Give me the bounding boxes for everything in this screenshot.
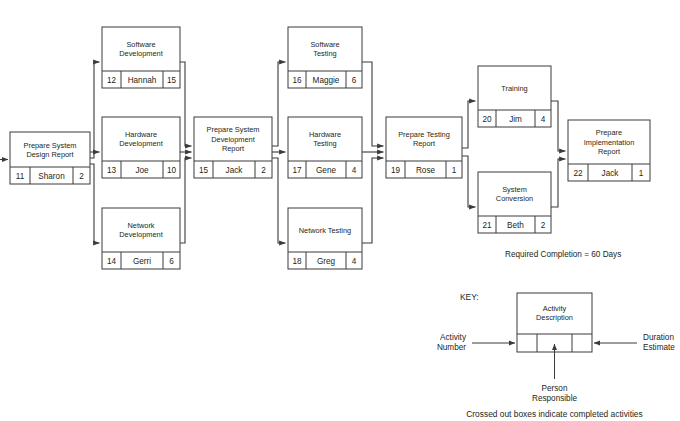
nodes-layer: Prepare SystemDesign Report11Sharon2Soft… (10, 27, 650, 269)
node-duration-estimate: 10 (167, 166, 177, 175)
node-title: Testing (313, 139, 336, 148)
node-person-responsible: Gene (316, 166, 336, 175)
node-activity-number: 18 (292, 257, 302, 266)
edge-connector (551, 101, 566, 151)
activity-node[interactable]: Prepare SystemDevelopmentReport15Jack2 (194, 117, 272, 178)
diagram-canvas: Prepare SystemDesign Report11Sharon2Soft… (0, 0, 680, 421)
edge-connector (180, 158, 192, 243)
legend-footnote: Crossed out boxes indicate completed act… (466, 409, 642, 419)
node-title: Network Testing (299, 226, 351, 235)
node-duration-estimate: 4 (352, 166, 357, 175)
node-title: Testing (313, 49, 336, 58)
edge-connector (462, 101, 476, 148)
node-title: Report (598, 147, 620, 156)
node-title: Development (211, 135, 255, 144)
node-activity-number: 13 (107, 166, 117, 175)
node-activity-number: 15 (199, 166, 209, 175)
required-completion-annotation: Required Completion = 60 Days (505, 250, 621, 259)
edge-connector (362, 62, 384, 146)
node-title: Report (413, 139, 435, 148)
edge-connector (272, 62, 286, 146)
node-person-responsible: Maggie (313, 76, 340, 85)
activity-node[interactable]: SoftwareTesting16Maggie6 (288, 27, 362, 88)
activity-node[interactable]: Prepare TestingReport19Rose1 (386, 117, 462, 178)
legend-activity-number-label: Number (437, 343, 466, 352)
node-title: Prepare Testing (398, 130, 450, 139)
node-activity-number: 11 (16, 172, 25, 181)
edge-connector (90, 62, 100, 152)
node-activity-number: 17 (292, 166, 302, 175)
node-duration-estimate: 1 (639, 169, 644, 178)
edge-connector (90, 152, 100, 158)
node-person-responsible: Jack (602, 169, 620, 178)
legend-person-label: Person (542, 384, 568, 393)
node-duration-estimate: 4 (541, 115, 546, 124)
project-network-svg: Prepare SystemDesign Report11Sharon2Soft… (0, 0, 680, 421)
node-title: Software (126, 40, 155, 49)
node-activity-number: 21 (482, 221, 492, 230)
node-title: Prepare (596, 128, 622, 137)
activity-node[interactable]: PrepareImplementationReport22Jack1 (568, 120, 650, 181)
node-duration-estimate: 15 (167, 76, 177, 85)
node-duration-estimate: 1 (452, 166, 457, 175)
node-title: Design Report (26, 150, 73, 159)
node-activity-number: 16 (292, 76, 302, 85)
node-person-responsible: Joe (135, 166, 149, 175)
node-activity-number: 12 (107, 76, 117, 85)
node-person-responsible: Greg (317, 257, 336, 266)
node-duration-estimate: 4 (352, 257, 357, 266)
activity-node[interactable]: Training20Jim4 (478, 66, 551, 127)
node-activity-number: 14 (107, 257, 117, 266)
node-title: Development (119, 230, 163, 239)
legend-duration-label: Estimate (643, 343, 675, 352)
legend-heading: KEY: (460, 292, 479, 302)
node-title: Implementation (584, 138, 635, 147)
node-person-responsible: Rose (416, 166, 436, 175)
node-title: Report (222, 144, 244, 153)
node-title: Network (127, 221, 154, 230)
node-title: Prepare System (207, 125, 260, 134)
node-person-responsible: Hannah (128, 76, 157, 85)
node-activity-number: 22 (573, 169, 583, 178)
edge-connector (551, 159, 566, 207)
node-person-responsible: Beth (507, 221, 524, 230)
edge-connector (462, 156, 476, 207)
node-title: Development (119, 139, 163, 148)
node-title: Training (501, 84, 527, 93)
node-person-responsible: Jack (226, 166, 244, 175)
activity-node[interactable]: NetworkDevelopment14Gerri6 (102, 208, 180, 269)
node-title: Hardware (125, 130, 157, 139)
legend-box-title: Description (536, 313, 573, 322)
legend-layer: Required Completion = 60 DaysKEY:Activit… (437, 250, 675, 419)
activity-node[interactable]: HardwareTesting17Gene4 (288, 117, 362, 178)
node-title: Software (310, 40, 339, 49)
node-duration-estimate: 6 (169, 257, 174, 266)
legend-duration-label: Duration (643, 333, 674, 342)
node-duration-estimate: 6 (352, 76, 357, 85)
node-person-responsible: Gerri (133, 257, 151, 266)
legend-box-title: Activity (543, 304, 567, 313)
activity-node[interactable]: HardwareDevelopment13Joe10 (102, 117, 180, 178)
node-person-responsible: Jim (509, 115, 522, 124)
edge-connector (362, 158, 384, 243)
node-activity-number: 19 (391, 166, 401, 175)
edge-connector (272, 158, 286, 243)
node-person-responsible: Sharon (38, 172, 65, 181)
node-title: Hardware (309, 130, 341, 139)
activity-node[interactable]: SystemConversion21Beth2 (478, 172, 551, 233)
activity-node[interactable]: Network Testing18Greg4 (288, 208, 362, 269)
node-activity-number: 20 (482, 115, 492, 124)
activity-node[interactable]: SoftwareDevelopment12Hannah15 (102, 27, 180, 88)
node-title: System (502, 185, 527, 194)
node-duration-estimate: 2 (79, 172, 84, 181)
legend-activity-number-label: Activity (440, 333, 467, 342)
legend-box-outline (517, 293, 592, 352)
legend: KEY:ActivityDescriptionActivityNumberDur… (437, 292, 675, 419)
node-duration-estimate: 2 (261, 166, 266, 175)
edge-connector (180, 62, 192, 146)
node-title: Conversion (496, 194, 533, 203)
node-duration-estimate: 2 (541, 221, 546, 230)
activity-node[interactable]: Prepare SystemDesign Report11Sharon2 (10, 132, 90, 184)
node-title: Prepare System (24, 141, 77, 150)
edge-connector (90, 164, 100, 243)
